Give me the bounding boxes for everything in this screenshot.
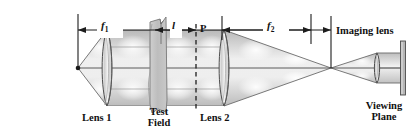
label-lens-1-text: Lens 1 <box>82 112 111 123</box>
test-field-glyph <box>148 17 167 113</box>
label-lens-2-text: Lens 2 <box>200 112 229 123</box>
label-viewing-plane-line1: Viewing <box>355 100 413 111</box>
label-imaging-lens-text: Imaging lens <box>336 25 393 36</box>
label-viewing-plane-line2: Plane <box>355 111 413 122</box>
label-f1: f1 <box>101 20 108 34</box>
label-test-field-line2: Field <box>137 117 181 128</box>
label-point-p-text: P <box>200 23 206 34</box>
label-test-field-line1: Test <box>137 106 181 117</box>
lens-2-glyph <box>219 30 229 106</box>
label-lens-1: Lens 1 <box>82 112 111 123</box>
label-lens-2: Lens 2 <box>200 112 229 123</box>
optical-system-diagram: f1 l P f2 Lens 1 Test Field Lens 2 Imagi… <box>0 0 419 135</box>
imaging-lens-glyph <box>374 53 379 83</box>
label-viewing-plane: Viewing Plane <box>355 100 413 122</box>
label-f2: f2 <box>267 20 274 34</box>
lens-1-glyph <box>102 30 112 106</box>
label-point-p: P <box>200 23 206 34</box>
viewing-plane-screen <box>401 41 406 95</box>
label-l-text: l <box>172 19 175 31</box>
label-imaging-lens: Imaging lens <box>336 25 393 36</box>
label-test-field: Test Field <box>137 106 181 128</box>
label-f2-subscript: 2 <box>271 25 275 34</box>
label-f1-subscript: 1 <box>105 25 109 34</box>
label-l: l <box>172 20 175 32</box>
